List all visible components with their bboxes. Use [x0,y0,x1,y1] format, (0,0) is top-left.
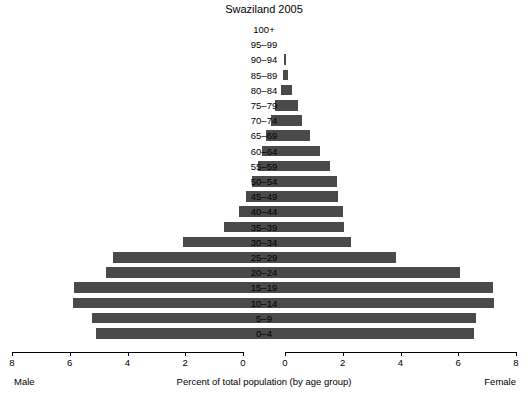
pyramid-row: 5–9 [0,311,528,326]
axis-tick [343,352,344,356]
age-group-label: 100+ [243,22,285,37]
axis-tick-label: 4 [386,357,416,368]
female-bar [285,54,286,65]
age-group-label: 20–24 [243,265,285,280]
axis-tick-label: 8 [501,357,528,368]
pyramid-row: 40–44 [0,204,528,219]
axis-tick [128,352,129,356]
pyramid-row: 75–79 [0,98,528,113]
female-bar [285,161,330,172]
pyramid-row: 85–89 [0,68,528,83]
axis-tick [185,352,186,356]
female-bar [285,146,320,157]
age-group-label: 10–14 [243,296,285,311]
female-bar [285,298,494,309]
female-bar [285,176,337,187]
plot-area: 100+95–9990–9485–8980–8475–7970–7465–696… [0,22,528,352]
pyramid-row: 65–69 [0,128,528,143]
female-bar [285,70,288,81]
female-bar [285,85,292,96]
pyramid-row: 10–14 [0,296,528,311]
pyramid-row: 95–99 [0,37,528,52]
axis-tick-label: 0 [228,357,258,368]
axis-tick [70,352,71,356]
age-group-label: 40–44 [243,204,285,219]
x-axis: 8642002468 Male Female Percent of total … [0,352,528,395]
female-bar [285,237,351,248]
age-group-label: 85–89 [243,68,285,83]
age-group-label: 80–84 [243,83,285,98]
age-group-label: 65–69 [243,128,285,143]
axis-tick-label: 0 [270,357,300,368]
age-group-label: 5–9 [243,311,285,326]
age-group-label: 50–54 [243,174,285,189]
axis-tick-label: 6 [55,357,85,368]
female-bar [285,206,343,217]
age-group-label: 95–99 [243,37,285,52]
age-group-label: 15–19 [243,280,285,295]
pyramid-row: 90–94 [0,52,528,67]
age-group-label: 45–49 [243,189,285,204]
axis-tick-label: 2 [328,357,358,368]
age-group-label: 25–29 [243,250,285,265]
axis-tick-label: 2 [170,357,200,368]
pyramid-row: 100+ [0,22,528,37]
female-bar [285,115,302,126]
axis-tick-label: 4 [113,357,143,368]
axis-tick [285,352,286,356]
age-group-label: 75–79 [243,98,285,113]
pyramid-row: 80–84 [0,83,528,98]
pyramid-row: 50–54 [0,174,528,189]
female-bar [285,252,396,263]
pyramid-row: 35–39 [0,220,528,235]
pyramid-row: 60–64 [0,144,528,159]
female-bar [285,130,310,141]
pyramid-row: 30–34 [0,235,528,250]
x-axis-label: Percent of total population (by age grou… [0,376,528,387]
pyramid-row: 0–4 [0,326,528,341]
pyramid-row: 15–19 [0,280,528,295]
chart-title: Swaziland 2005 [0,3,528,15]
pyramid-row: 70–74 [0,113,528,128]
axis-tick [401,352,402,356]
female-bar [285,267,460,278]
pyramid-row: 45–49 [0,189,528,204]
female-bar [285,328,474,339]
axis-tick [458,352,459,356]
population-pyramid-chart: Swaziland 2005 100+95–9990–9485–8980–847… [0,0,528,395]
axis-tick [12,352,13,356]
age-group-label: 55–59 [243,159,285,174]
pyramid-row: 25–29 [0,250,528,265]
female-bar [285,191,338,202]
age-group-label: 35–39 [243,220,285,235]
age-group-label: 30–34 [243,235,285,250]
age-group-label: 60–64 [243,144,285,159]
pyramid-row: 20–24 [0,265,528,280]
pyramid-row: 55–59 [0,159,528,174]
female-bar [285,282,493,293]
axis-tick-label: 6 [443,357,473,368]
age-group-label: 90–94 [243,52,285,67]
female-bar [285,100,298,111]
axis-tick-label: 8 [0,357,27,368]
axis-tick [243,352,244,356]
age-group-label: 0–4 [243,326,285,341]
age-group-label: 70–74 [243,113,285,128]
female-bar [285,313,476,324]
female-bar [285,222,344,233]
axis-tick [516,352,517,356]
